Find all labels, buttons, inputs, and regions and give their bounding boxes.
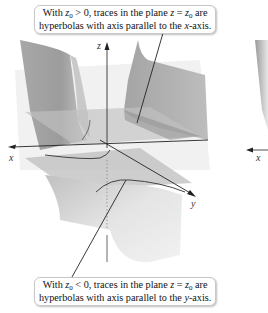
surface-graphic [0,0,268,313]
callout-negative-line2: hyperbolas with axis parallel to the y-a… [39,292,211,305]
x-axis-arrow-right-panel [246,148,253,153]
lower-sheet [45,175,182,262]
x-axis-label: x [9,152,13,163]
y-axis-label: y [191,198,195,209]
callout-positive-line2: hyperbolas with axis parallel to the x-a… [39,20,211,33]
callout-negative-line1: With z0 < 0, traces in the plane z = z0 … [39,279,211,292]
right-panel-sheet [255,40,268,130]
saddle-figure: z x y x With z0 > 0, traces in the plane… [0,0,268,313]
x-axis-label-right-panel: x [256,152,260,163]
z-axis-label: z [97,40,101,51]
z-axis-arrow [105,42,110,50]
callout-positive-z: With z0 > 0, traces in the plane z = z0 … [34,5,216,34]
x-axis-arrow [8,145,16,150]
callout-negative-z: With z0 < 0, traces in the plane z = z0 … [34,277,216,306]
callout-positive-line1: With z0 > 0, traces in the plane z = z0 … [39,7,211,20]
y-axis-arrow [187,190,196,197]
